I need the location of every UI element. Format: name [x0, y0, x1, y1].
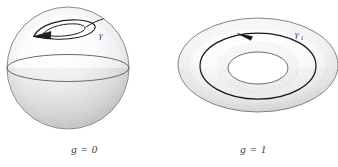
- torus-loop-label: γ: [295, 29, 299, 39]
- caption-torus: g = 1: [169, 143, 338, 155]
- torus-figure: γ 1: [169, 0, 338, 143]
- torus-loop-label-subscript: 1: [301, 35, 304, 41]
- figure-root: γ: [0, 0, 338, 167]
- torus-hole: [228, 52, 288, 84]
- sphere-figure: γ: [0, 0, 169, 143]
- caption-sphere: g = 0: [0, 143, 169, 155]
- sphere-loop-label: γ: [99, 30, 103, 40]
